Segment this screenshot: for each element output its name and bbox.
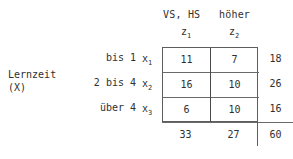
row-label-2: über 4 bbox=[36, 102, 136, 114]
row-variable-x3-index: 3 bbox=[148, 109, 152, 117]
cell-r2-c0: 6 bbox=[163, 104, 210, 116]
bottom-rule bbox=[162, 122, 293, 123]
frequency-matrix: 11 7 16 10 6 10 bbox=[162, 47, 258, 122]
cell-r2-c1: 10 bbox=[211, 104, 258, 116]
row-label-1: 2 bis 4 bbox=[36, 77, 136, 89]
column-total-1: 27 bbox=[210, 129, 257, 141]
row-total-1: 26 bbox=[258, 78, 293, 90]
row-divider-2 bbox=[163, 97, 259, 98]
row-variable-x3: x3 bbox=[142, 103, 152, 117]
row-label-0: bis 1 bbox=[36, 52, 136, 64]
row-variable-x1: x1 bbox=[142, 53, 152, 67]
cell-r1-c0: 16 bbox=[163, 79, 210, 91]
row-divider-1 bbox=[163, 72, 259, 73]
column-variable-z2-index: 2 bbox=[235, 32, 239, 40]
row-variable-x2-index: 2 bbox=[148, 84, 152, 92]
row-total-2: 16 bbox=[258, 103, 293, 115]
contingency-table-figure: VS, HS höher z1 z2 Lernzeit (X) bis 1 2 … bbox=[0, 0, 293, 159]
row-total-0: 18 bbox=[258, 53, 293, 65]
cell-r0-c0: 11 bbox=[163, 54, 210, 66]
column-total-0: 33 bbox=[162, 129, 209, 141]
column-variable-z1-index: 1 bbox=[187, 32, 191, 40]
column-group-header: VS, HS höher bbox=[163, 9, 250, 21]
row-variable-x1-index: 1 bbox=[148, 59, 152, 67]
cell-r1-c1: 10 bbox=[211, 79, 258, 91]
column-variable-z2: z2 bbox=[210, 26, 258, 40]
row-variable-x2: x2 bbox=[142, 78, 152, 92]
cell-r0-c1: 7 bbox=[211, 54, 258, 66]
grand-total: 60 bbox=[258, 129, 293, 141]
column-variable-z1: z1 bbox=[162, 26, 210, 40]
